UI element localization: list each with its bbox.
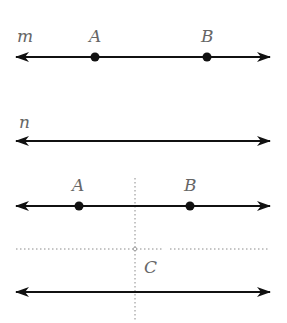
point-b2-label: B — [183, 175, 197, 195]
figure-svg: m A B n C A B — [0, 0, 287, 323]
line-n-group: n — [16, 112, 270, 141]
point-b — [203, 53, 212, 62]
point-a2-label: A — [70, 175, 84, 195]
geometry-figure: m A B n C A B — [0, 0, 287, 323]
construction-group: C A B — [16, 175, 270, 320]
line-m-label: m — [17, 26, 33, 46]
point-b-label: B — [200, 26, 214, 46]
line-m-group: m A B — [16, 26, 270, 62]
point-c-label: C — [144, 257, 157, 277]
line-n-label: n — [19, 112, 30, 132]
point-b2 — [186, 202, 195, 211]
point-a — [91, 53, 100, 62]
point-a-label: A — [87, 26, 101, 46]
point-a2 — [75, 202, 84, 211]
